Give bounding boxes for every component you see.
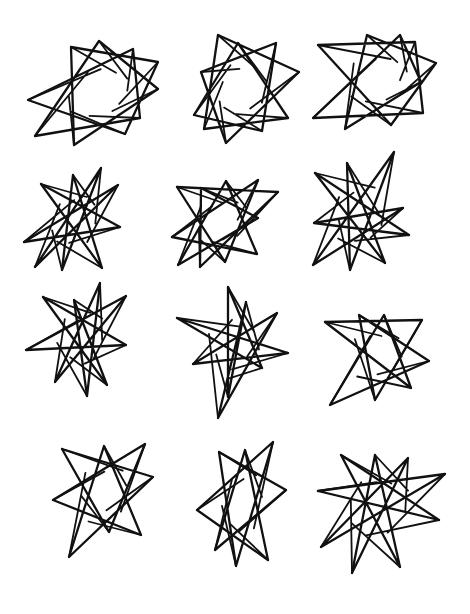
drawing-canvas [0,0,470,614]
